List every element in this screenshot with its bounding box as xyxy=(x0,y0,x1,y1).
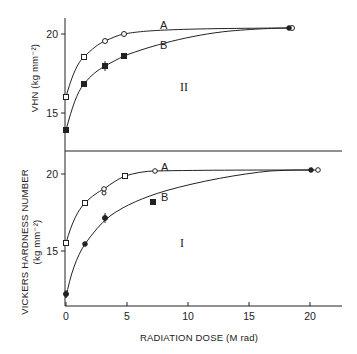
bottom-curve-a xyxy=(66,170,318,243)
top-curve-a-label: A xyxy=(160,19,168,31)
x-tick-label-20: 20 xyxy=(304,310,316,322)
hardness-vs-dose-chart: 20 15 A B II VHN (kg mm⁻²) xyxy=(0,0,357,354)
bottom-panel-label: I xyxy=(180,236,184,250)
bottom-y-tick-label-15: 15 xyxy=(46,245,58,257)
bottom-y-axis-title-line2: (kg mm⁻²) xyxy=(31,220,42,265)
top-series-b-markers xyxy=(64,26,292,133)
top-series-a-markers xyxy=(64,26,295,100)
bottom-curve-b-label: B xyxy=(161,191,168,203)
x-tick-label-5: 5 xyxy=(124,310,130,322)
x-axis-ticks xyxy=(66,302,310,306)
top-y-tick-label-20: 20 xyxy=(46,28,58,40)
top-y-axis-title: VHN (kg mm⁻²) xyxy=(29,44,40,112)
x-tick-label-10: 10 xyxy=(182,310,194,322)
bottom-series-b-markers xyxy=(64,168,314,298)
panel-i: 20 15 0 5 10 15 20 RADIATION DOSE (M rad… xyxy=(19,151,342,343)
x-axis-title: RADIATION DOSE (M rad) xyxy=(140,332,258,343)
top-panel-label: II xyxy=(180,80,188,94)
x-tick-label-0: 0 xyxy=(63,310,69,322)
panel-ii: 20 15 A B II VHN (kg mm⁻²) xyxy=(29,18,295,151)
top-curve-a xyxy=(66,28,291,97)
bottom-y-axis-title-line1: VICKERS HARDNESS NUMBER xyxy=(19,169,30,315)
bottom-series-a-markers xyxy=(64,168,321,246)
bottom-curve-a-label: A xyxy=(161,161,169,173)
top-y-tick-label-15: 15 xyxy=(46,107,58,119)
x-tick-label-15: 15 xyxy=(243,310,255,322)
bottom-y-tick-label-20: 20 xyxy=(46,168,58,180)
top-curve-b-label: B xyxy=(160,39,167,51)
